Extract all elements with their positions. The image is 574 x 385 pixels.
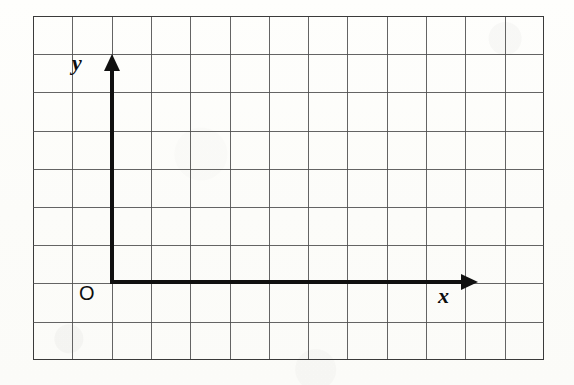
origin-label: O <box>79 283 95 303</box>
y-axis-label: y <box>72 52 82 74</box>
x-axis-label: x <box>438 285 449 307</box>
y-axis-line <box>110 68 114 283</box>
x-axis-arrowhead-icon <box>461 274 478 290</box>
coordinate-axes <box>0 0 574 385</box>
x-axis-line <box>110 280 462 284</box>
figure-canvas: y x O <box>0 0 574 385</box>
y-axis-arrowhead-icon <box>104 54 120 71</box>
